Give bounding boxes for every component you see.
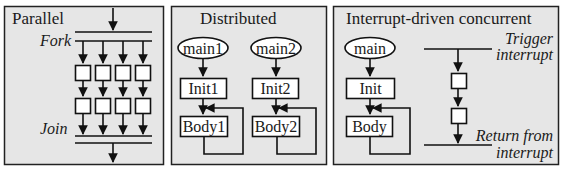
entry-label: main1: [183, 40, 223, 57]
join-label: Join: [40, 120, 68, 137]
entry-label: main: [354, 40, 386, 57]
task-box: [136, 66, 151, 81]
handler-task-box: [452, 74, 467, 89]
task-box: [136, 99, 151, 114]
return-label-line2: interrupt: [496, 144, 553, 162]
trigger-label-line2: interrupt: [496, 46, 553, 64]
parallel-frame: [5, 7, 164, 165]
task-box: [116, 99, 131, 114]
task-box: [96, 99, 111, 114]
parallel-title: Parallel: [12, 9, 64, 28]
distributed-panel: Distributed main1 Init1 Body1 main2 Init…: [172, 7, 327, 165]
distributed-title: Distributed: [200, 9, 277, 28]
fork-label: Fork: [39, 32, 72, 49]
init-label: Init1: [188, 80, 218, 97]
task-box: [116, 66, 131, 81]
body-label: Body1: [183, 118, 226, 136]
concurrency-models-diagram: Parallel Fork: [0, 0, 563, 171]
parallel-panel: Parallel Fork: [5, 7, 164, 165]
handler-task-box: [452, 109, 467, 124]
task-box: [76, 66, 91, 81]
task-box: [76, 99, 91, 114]
body-label: Body: [352, 118, 387, 136]
entry-label: main2: [256, 40, 296, 57]
task-box: [96, 66, 111, 81]
body-label: Body2: [255, 118, 298, 136]
return-label-line1: Return from: [475, 127, 553, 145]
interrupt-panel: Interrupt-driven concurrent main Init Bo…: [334, 7, 559, 165]
init-label: Init: [359, 80, 382, 97]
interrupt-title: Interrupt-driven concurrent: [346, 9, 532, 28]
init-label: Init2: [260, 80, 290, 97]
